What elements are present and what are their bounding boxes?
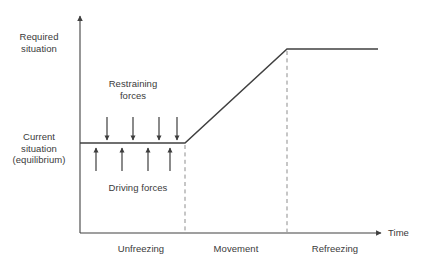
x-axis-phase-label-refreezing: Refreezing — [288, 243, 382, 255]
annotation-restraining-forces: Restraining forces — [97, 78, 169, 101]
force-field-change-diagram: Required situation Current situation (eq… — [0, 0, 423, 264]
restraining-force-arrows — [107, 117, 177, 140]
y-axis-label-required-situation: Required situation — [2, 31, 76, 54]
x-axis-phase-label-movement: Movement — [188, 243, 284, 255]
driving-force-arrows — [96, 148, 170, 171]
x-axis-phase-label-unfreezing: Unfreezing — [96, 243, 186, 255]
annotation-driving-forces: Driving forces — [93, 182, 183, 194]
x-axis-title-time: Time — [388, 227, 422, 239]
y-axis-label-current-situation: Current situation (equilibrium) — [0, 131, 78, 166]
